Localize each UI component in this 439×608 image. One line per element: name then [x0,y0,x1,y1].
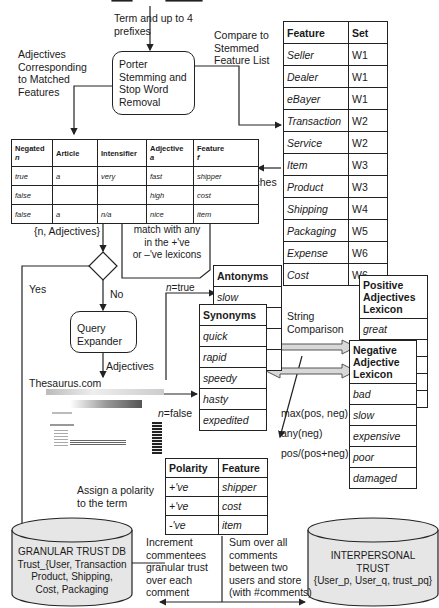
header-adjective: Adjectivea [147,140,194,167]
negated-cell: true [12,167,53,186]
positive-lexicon-header: PositiveAdjectivesLexicon [360,276,428,319]
polarity-cell: +'ve [166,497,219,516]
table-row: quick [200,326,267,347]
table-header-row: Synonyms [200,305,267,326]
feature-cell: eBayer [284,88,349,110]
feature-cell: Dealer [284,66,349,88]
negative-cell: expensive [350,426,417,447]
table-row: false high cost [12,186,259,205]
max-formula: max(pos, neg) [281,407,348,420]
term-prefixes-label: Term and up to 4prefixes [114,12,193,37]
assign-polarity-label: Assign a polarityto the term [77,484,154,509]
intensifier-cell: n/a [98,205,147,224]
no-label: No [110,288,123,301]
feature-cell: Product [284,176,349,198]
table-header-row: Polarity Feature [166,459,268,478]
string-comparison-label: StringComparison [287,310,344,335]
table-header-row: Feature Set [284,22,388,44]
table-header-row: Antonyms [214,266,282,287]
set-cell: W1 [349,44,388,66]
match-lexicon-callout: match with anyin the +'veor –'ve lexicon… [124,224,210,262]
negative-lexicon-header: NegativeAdjectiveLexicon [350,341,417,384]
table-row: DealerW1 [284,66,388,88]
feature-cell: shipper [219,478,268,497]
interpersonal-trust-db: INTERPERSONALTRUST{User_p, User_q, trust… [308,550,438,588]
table-row: rapid [200,347,267,368]
feature-cell: cost [194,186,259,205]
n-false-label: n=false [158,407,192,420]
granular-trust-db: GRANULAR TRUST DBTrust_{User, Transactio… [12,546,132,596]
set-cell: W3 [349,154,388,176]
negative-cell: bad [350,384,417,405]
decision-diamond [89,252,117,280]
feature-cell: Cost [284,264,349,286]
synonym-cell: hasty [200,389,267,410]
intensifier-cell: very [98,167,147,186]
feature-set-table: Feature Set SellerW1 DealerW1 eBayerW1 T… [283,21,388,286]
table-row: ExpenseW6 [284,242,388,264]
negative-lexicon-table: NegativeAdjectiveLexicon bad slow expens… [349,340,417,489]
feature-cell: Expense [284,242,349,264]
negative-cell: poor [350,447,417,468]
table-row: false a n/a nice item [12,205,259,224]
adjectives-label: Adjectives [106,360,154,373]
table-row: damaged [350,468,417,489]
table-row: ProductW3 [284,176,388,198]
adjective-table: Negatedn Article Intensifier Adjectivea … [11,139,259,224]
header-feature: Featuref [194,140,259,167]
table-row: great [360,319,428,340]
table-row: PackagingW5 [284,220,388,242]
any-formula: any(neg) [281,427,322,440]
table-row: ShippingW4 [284,198,388,220]
feature-cell: Shipping [284,198,349,220]
table-row: -'veitem [166,516,268,535]
polarity-cell: -'ve [166,516,219,535]
table-row: expensive [350,426,417,447]
feature-cell: cost [219,497,268,516]
header-feature: Feature [284,22,349,44]
table-row: SellerW1 [284,44,388,66]
table-row: +'veshipper [166,478,268,497]
negated-cell: false [12,186,53,205]
set-cell: W4 [349,198,388,220]
feature-cell: Seller [284,44,349,66]
header-set: Set [349,22,388,44]
set-cell: W2 [349,132,388,154]
sum-label: Sum over allcommentsbetween two users an… [229,536,312,599]
set-cell: W6 [349,242,388,264]
table-row: +'vecost [166,497,268,516]
table-header-row: NegativeAdjectiveLexicon [350,341,417,384]
negative-cell: damaged [350,468,417,489]
header-negated: Negatedn [12,140,53,167]
adjective-cell: fast [147,167,194,186]
header-feature: Feature [219,459,268,478]
feature-cell: item [194,205,259,224]
article-cell [53,186,98,205]
table-row: eBayerW1 [284,88,388,110]
synonym-cell: expedited [200,410,267,431]
set-cell: W3 [349,176,388,198]
positive-cell: great [360,319,428,340]
table-row: ItemW3 [284,154,388,176]
feature-cell: Transaction [284,110,349,132]
negative-cell: slow [350,405,417,426]
set-cell: W2 [349,110,388,132]
article-cell: a [53,205,98,224]
thesaurus-screenshot [46,388,164,458]
feature-cell: item [219,516,268,535]
set-cell: W1 [349,66,388,88]
adjective-cell: nice [147,205,194,224]
table-row: expedited [200,410,267,431]
set-cell: W5 [349,220,388,242]
antonyms-header: Antonyms [214,266,282,287]
header-article: Article [53,140,98,167]
ratio-formula: pos/(pos+neg) [281,447,348,460]
compare-label: Compare toStemmedFeature List [214,29,269,67]
polarity-table: Polarity Feature +'veshipper +'vecost -'… [165,458,268,535]
negated-cell: false [12,205,53,224]
table-header-row: Negatedn Article Intensifier Adjectivea … [12,140,259,167]
feature-cell: Item [284,154,349,176]
adjective-cell: high [147,186,194,205]
n-adjectives-label: {n, Adjectives} [34,225,100,238]
feature-cell: Service [284,132,349,154]
